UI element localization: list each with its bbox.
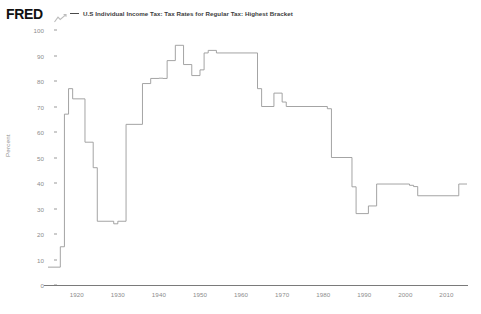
x-axis-tick-label: 2010 [439, 291, 453, 298]
x-axis-tick-label: 1960 [234, 291, 248, 298]
x-axis-tick-label: 1970 [275, 291, 289, 298]
y-axis-tick-label: 40 [18, 180, 44, 187]
y-axis-tick-label: 30 [18, 205, 44, 212]
series-plot [0, 0, 481, 314]
y-axis-tick-mark [54, 157, 57, 158]
legend-line-swatch [70, 13, 79, 14]
y-axis-tick-mark [54, 106, 57, 107]
x-axis-tick-label: 2000 [398, 291, 412, 298]
x-axis-tick-label: 1940 [152, 291, 166, 298]
y-axis-tick-label: 20 [18, 231, 44, 238]
y-axis-tick-mark [54, 234, 57, 235]
y-axis-tick-mark [54, 132, 57, 133]
y-axis-tick-label: 60 [18, 129, 44, 136]
fred-chart-figure: FRED U.S Individual Income Tax: Tax Rate… [0, 0, 481, 314]
y-axis-tick-label: 50 [18, 154, 44, 161]
y-axis-title: Percent [4, 134, 11, 157]
y-axis-tick-label: 80 [18, 78, 44, 85]
x-axis-tick-label: 1950 [193, 291, 207, 298]
y-axis-tick-mark [54, 183, 57, 184]
y-axis-tick-mark [54, 259, 57, 260]
x-axis-tick-label: 1920 [70, 291, 84, 298]
y-axis-tick-mark [54, 81, 57, 82]
y-axis-tick-mark [54, 30, 57, 31]
chart-header: FRED U.S Individual Income Tax: Tax Rate… [0, 0, 481, 24]
x-axis-tick-label: 1930 [111, 291, 125, 298]
x-axis-line [44, 285, 468, 286]
fred-squiggle-icon [54, 9, 67, 18]
x-axis-tick-label: 1990 [357, 291, 371, 298]
y-axis-tick-label: 100 [18, 27, 44, 34]
x-axis-tick-label: 1980 [316, 291, 330, 298]
y-axis-tick-label: 0 [18, 282, 44, 289]
y-axis-tick-label: 90 [18, 52, 44, 59]
y-axis: Percent 1009080706050403020100 [10, 0, 44, 314]
legend-series-label: U.S Individual Income Tax: Tax Rates for… [83, 10, 293, 17]
y-axis-tick-label: 10 [18, 256, 44, 263]
y-axis-tick-label: 70 [18, 103, 44, 110]
chart-legend: U.S Individual Income Tax: Tax Rates for… [70, 7, 293, 19]
y-axis-tick-mark [54, 208, 57, 209]
y-axis-tick-mark [54, 55, 57, 56]
